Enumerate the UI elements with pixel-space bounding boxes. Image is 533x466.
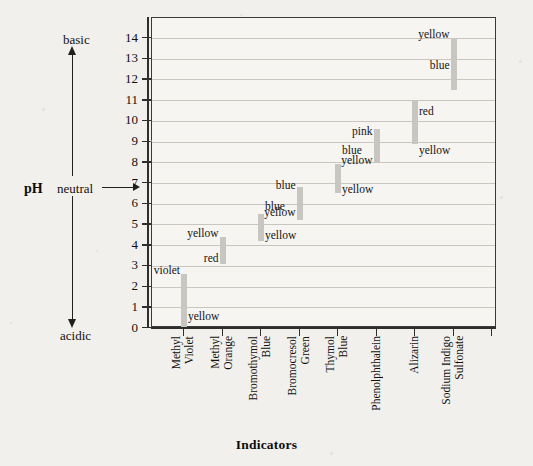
y-axis-tick-label: 3 (112, 258, 138, 271)
y-axis-tick-label: 0 (112, 321, 138, 334)
y-axis-tick-label: 11 (112, 93, 138, 106)
paper-speck (42, 108, 45, 111)
gridline (152, 121, 495, 122)
y-axis-tick-label: 6 (112, 196, 138, 209)
y-axis-labels: 14131211109876543210 (108, 0, 138, 340)
x-axis-tick-label: Alizarin (408, 336, 421, 374)
table-row (220, 237, 226, 264)
x-axis-tick-label: Sodium Indigo Sulfonate (440, 336, 466, 405)
y-axis-tick (142, 203, 151, 204)
y-axis-tick-label: 8 (112, 155, 138, 168)
table-row (451, 38, 457, 90)
y-axis-tick-label: 2 (112, 279, 138, 292)
bar-color-label: blue (430, 59, 450, 71)
bar-color-label: yellow (341, 154, 372, 166)
y-axis-tick (142, 58, 151, 59)
gridline (152, 266, 495, 267)
ph-up-arrow-head (68, 46, 76, 55)
bar-color-label: pink (352, 125, 372, 137)
ph-up-arrow-shaft (72, 54, 73, 176)
bar-color-label: red (419, 105, 434, 117)
gridline (152, 79, 495, 80)
paper-speck (240, 14, 242, 16)
ph-down-arrow-shaft (72, 196, 73, 319)
y-axis-tick (142, 99, 151, 100)
chart-canvas: pH basic neutral acidic 1413121110987654… (0, 0, 533, 466)
table-row (181, 274, 187, 328)
y-axis-tick (142, 161, 151, 162)
x-axis-tick (337, 328, 338, 336)
bar-color-label: yellow (187, 227, 218, 239)
paper-speck (150, 140, 152, 142)
table-row (258, 214, 264, 241)
bar-color-label: yellow (419, 144, 450, 156)
y-axis-tick (142, 306, 151, 307)
ph-neutral-label: neutral (57, 181, 93, 197)
y-axis-tick (142, 327, 151, 328)
ph-basic-label: basic (63, 32, 90, 48)
paper-speck (519, 60, 522, 63)
x-axis-tick-label: Bromothymol Blue (247, 336, 273, 401)
y-axis-tick-label: 5 (112, 217, 138, 230)
x-axis-tick (299, 328, 300, 336)
y-axis-tick-label: 12 (112, 72, 138, 85)
y-axis-tick (142, 286, 151, 287)
x-axis-tick (453, 328, 454, 336)
y-axis-tick (142, 182, 151, 183)
x-axis-tick-label: Methyl Orange (209, 336, 235, 370)
table-row (374, 129, 380, 162)
bar-color-label: yellow (188, 310, 219, 322)
paper-speck (500, 196, 503, 199)
bar-color-label: blue (276, 179, 296, 191)
paper-speck (10, 322, 12, 324)
bar-color-label: yellow (264, 206, 295, 218)
x-axis-tick-label: Bromocresol Green (286, 336, 312, 395)
x-axis-tick (260, 328, 261, 336)
table-row (412, 100, 418, 144)
x-axis-tick (183, 328, 184, 336)
y-axis-tick (142, 78, 151, 79)
x-axis-tick-label: Thymol Blue (324, 336, 350, 372)
y-axis-tick (142, 120, 151, 121)
y-axis-tick-label: 14 (112, 31, 138, 44)
gridline (152, 183, 495, 184)
bar-color-label: yellow (418, 28, 449, 40)
y-axis-tick (142, 265, 151, 266)
x-axis-tick (222, 328, 223, 336)
x-axis-tick-label: Phenolphthalein (370, 336, 383, 411)
y-axis-tick-label: 1 (112, 300, 138, 313)
y-axis-tick (142, 223, 151, 224)
x-axis-tick-label: Methyl Violet (170, 336, 196, 369)
gridline (152, 100, 495, 101)
bar-color-label: yellow (265, 229, 296, 241)
x-axis-title: Indicators (0, 437, 533, 453)
ph-acidic-label: acidic (60, 328, 91, 344)
paper-speck (96, 250, 98, 252)
bar-color-label: yellow (342, 183, 373, 195)
y-axis-tick-label: 4 (112, 238, 138, 251)
y-axis-tick-label: 13 (112, 51, 138, 64)
gridline (152, 204, 495, 205)
gridline (152, 287, 495, 288)
x-axis-line (151, 327, 496, 329)
y-axis-tick (142, 37, 151, 38)
ph-down-arrow-head (68, 319, 76, 328)
plot-area: yellowvioletredyellowyellowblueyellowblu… (151, 17, 496, 327)
gridline (152, 307, 495, 308)
bar-color-label: violet (154, 264, 180, 276)
ph-axis-title: pH (24, 181, 43, 197)
gridline (152, 162, 495, 163)
y-axis-tick-label: 7 (112, 176, 138, 189)
y-axis-line (147, 17, 149, 328)
bar-color-label: red (204, 252, 219, 264)
table-row (335, 164, 341, 193)
paper-speck (330, 452, 333, 455)
gridline (152, 142, 495, 143)
y-axis-tick-label: 10 (112, 113, 138, 126)
table-row (297, 187, 303, 220)
y-axis-tick-label: 9 (112, 134, 138, 147)
gridline (152, 245, 495, 246)
gridline (152, 224, 495, 225)
y-axis-tick (142, 244, 151, 245)
x-axis-tick (491, 328, 492, 336)
